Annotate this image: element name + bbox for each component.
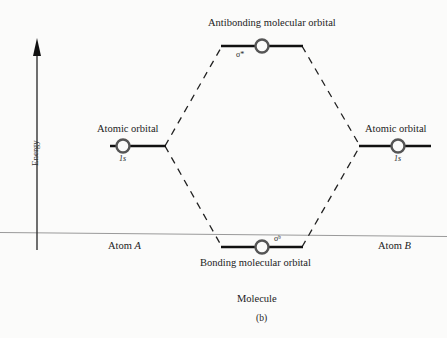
baseline-line xyxy=(0,233,447,237)
bonding-orbital-circle-icon xyxy=(256,241,269,254)
atomic-orbital-right-label: Atomic orbital xyxy=(365,123,427,134)
energy-levels xyxy=(110,46,431,247)
bonding-symbol: σᵇ xyxy=(274,234,281,243)
right-orbital-1s: 1s xyxy=(394,154,401,163)
antibonding-symbol: σ* xyxy=(236,50,244,59)
diagram-graphics xyxy=(0,0,447,338)
energy-axis-label: Energy xyxy=(30,140,40,166)
molecule-label: Molecule xyxy=(237,293,277,304)
left-orbital-circle-icon xyxy=(117,140,130,153)
antibonding-orbital-circle-icon xyxy=(256,40,269,53)
figure-caption: (b) xyxy=(256,313,267,323)
atom-a-label: Atom A xyxy=(108,240,141,251)
atom-b-label: Atom B xyxy=(378,240,411,251)
bonding-label: Bonding molecular orbital xyxy=(200,257,311,268)
right-orbital-circle-icon xyxy=(392,140,405,153)
correlation-lines xyxy=(165,46,360,247)
mo-diagram: Energy Antibonding molecular orbital σ* … xyxy=(0,0,447,338)
left-orbital-1s: 1s xyxy=(119,154,126,163)
antibonding-label: Antibonding molecular orbital xyxy=(208,17,336,28)
atomic-orbital-left-label: Atomic orbital xyxy=(97,123,159,134)
